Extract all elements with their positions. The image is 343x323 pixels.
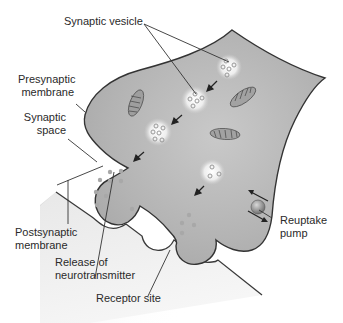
label-receptor-site: Receptor site [96,292,161,305]
label-presynaptic-membrane: Presynaptic membrane [18,73,74,98]
synaptic-vesicle [181,86,209,114]
synaptic-vesicle [199,159,225,185]
label-synaptic-space: Synaptic space [18,111,66,136]
label-release-of-neurotransmitter: Release of neurotransmitter [55,256,135,281]
label-synaptic-vesicle: Synaptic vesicle [64,15,143,28]
label-postsynaptic-membrane: Postsynaptic membrane [15,226,77,251]
synapse-illustration [0,0,343,323]
synapse-diagram: Synaptic vesicle Presynaptic membrane Sy… [0,0,343,323]
synaptic-vesicle [144,118,172,146]
label-reuptake-pump: Reuptake pump [280,214,327,239]
